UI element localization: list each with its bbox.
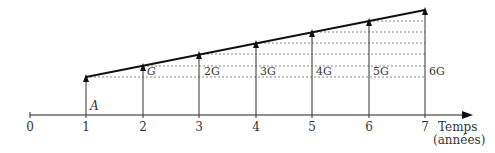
svg-text:1: 1 <box>82 120 90 134</box>
svg-text:4G: 4G <box>316 65 332 78</box>
svg-text:5: 5 <box>308 120 316 134</box>
svg-text:G: G <box>147 65 156 78</box>
axis-arrow-icon <box>462 111 473 119</box>
svg-text:3: 3 <box>195 120 203 134</box>
arrow-up-icon <box>83 74 89 82</box>
svg-text:2G: 2G <box>204 65 220 78</box>
gradient-labels: G 2G 3G 4G 5G 6G <box>147 65 445 78</box>
base-amount-label: A <box>89 99 99 113</box>
diagram-canvas: 0 1 2 3 4 5 6 7 Temps (années) A G 2G 3G… <box>0 0 495 153</box>
axis-label-time: Temps <box>438 120 477 134</box>
svg-text:3G: 3G <box>260 65 276 78</box>
axis-label-unit: (années) <box>433 133 485 147</box>
svg-text:4: 4 <box>252 120 260 134</box>
svg-text:7: 7 <box>421 120 429 134</box>
gradient-cash-flow-diagram: 0 1 2 3 4 5 6 7 Temps (années) A G 2G 3G… <box>0 0 495 153</box>
svg-text:6: 6 <box>365 120 373 134</box>
svg-text:2: 2 <box>139 120 147 134</box>
svg-text:0: 0 <box>26 120 34 134</box>
svg-text:6G: 6G <box>429 65 445 78</box>
tick-labels: 0 1 2 3 4 5 6 7 <box>26 120 429 134</box>
svg-text:5G: 5G <box>373 65 389 78</box>
